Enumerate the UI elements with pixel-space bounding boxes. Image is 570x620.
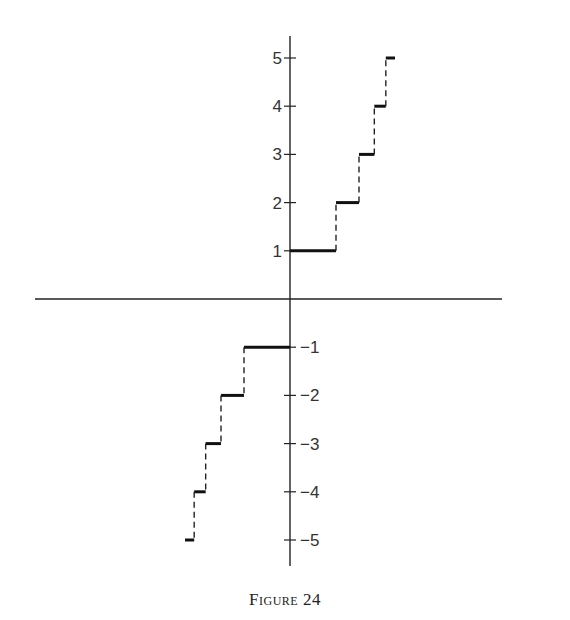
y-tick-label: 3 [273, 145, 282, 164]
y-tick-label: 5 [273, 49, 282, 68]
y-tick-label: −2 [300, 386, 319, 405]
y-tick-label: −3 [300, 435, 319, 454]
axes [35, 36, 502, 566]
y-tick-label: 1 [273, 242, 282, 261]
y-tick-label: 2 [273, 194, 282, 213]
y-tick-label: −4 [300, 483, 319, 502]
y-tick-label: −1 [300, 338, 319, 357]
step-function-figure: 54321−1−2−3−4−5 [0, 0, 570, 620]
figure-caption: Figure 24 [0, 590, 570, 610]
y-tick-label: 4 [273, 97, 282, 116]
y-tick-label: −5 [300, 531, 319, 550]
